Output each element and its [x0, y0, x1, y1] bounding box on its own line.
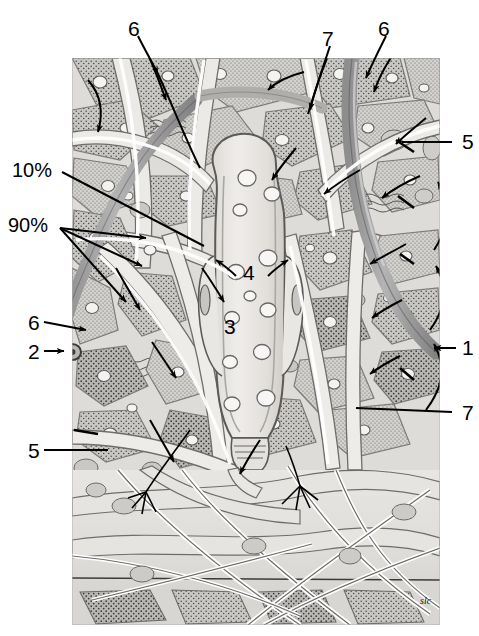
label-90-percent: 90% [8, 215, 48, 235]
label-10-percent: 10% [12, 160, 52, 180]
label-4-center: 4 [243, 262, 255, 283]
anatomical-illustration: slc [0, 0, 479, 636]
label-6-left: 6 [28, 312, 40, 333]
tissue-plate: slc [62, 36, 447, 625]
label-1-right: 1 [462, 337, 474, 358]
label-5-bottom-left: 5 [28, 440, 40, 461]
label-7-right: 7 [462, 402, 474, 423]
label-3-center: 3 [224, 316, 236, 337]
label-7-top: 7 [322, 28, 334, 49]
label-5-right: 5 [462, 131, 474, 152]
label-2-left: 2 [28, 341, 40, 362]
label-6-top-left: 6 [128, 18, 140, 39]
loose-connective-zone [72, 466, 440, 625]
label-6-top-right: 6 [378, 18, 390, 39]
illustrator-signature: slc [420, 595, 432, 606]
illustration-page: slc [0, 0, 479, 636]
